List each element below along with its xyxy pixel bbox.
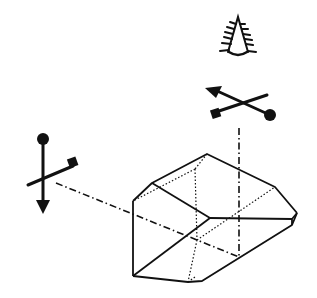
eye-symbol (220, 17, 256, 55)
circle-marker-icon (37, 133, 49, 145)
prism (133, 154, 297, 282)
arrow-head-icon (36, 200, 50, 214)
optical-axes (56, 128, 239, 257)
orientation-marker-top (205, 86, 276, 121)
circle-marker-icon (264, 109, 276, 121)
orientation-marker-left (28, 133, 78, 214)
diagram-canvas (0, 0, 317, 298)
